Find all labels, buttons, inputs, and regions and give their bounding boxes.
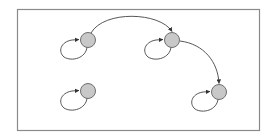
state-node-n4[interactable] [212, 85, 227, 100]
state-node-n2[interactable] [165, 33, 180, 48]
state-node-n3[interactable] [81, 84, 96, 99]
diagram-frame [18, 10, 260, 131]
state-diagram [0, 0, 273, 139]
state-node-n1[interactable] [81, 33, 96, 48]
